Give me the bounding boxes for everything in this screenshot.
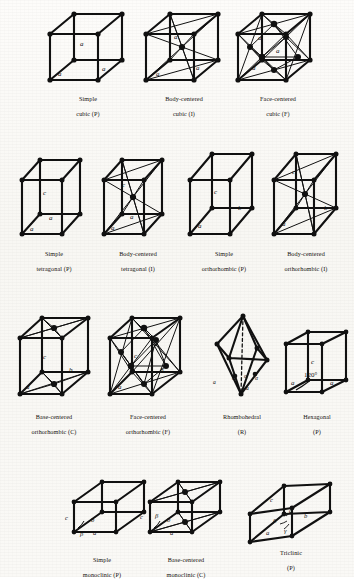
face-center-point bbox=[283, 34, 289, 40]
caption-triclinic: Triclinic (P) bbox=[248, 542, 334, 579]
body-center-point bbox=[130, 194, 136, 200]
lattice-diagram-simple-orthorhombic: c b a bbox=[184, 148, 264, 242]
edge-label-a: a bbox=[80, 40, 84, 48]
base-center-point-bottom bbox=[51, 381, 57, 387]
edge-label-a: a bbox=[26, 383, 30, 391]
caption-line-2: (P) bbox=[248, 564, 334, 571]
caption-line-2: (P) bbox=[280, 428, 354, 435]
lattice-diagram-body-centered-tetragonal: c a a bbox=[96, 150, 178, 242]
caption-line-2: orthorhombic (F) bbox=[98, 428, 198, 435]
caption-simple-cubic: Simple cubic (P) bbox=[36, 88, 140, 125]
lattice-diagram-body-centered-orthorhombic: c b a bbox=[268, 148, 350, 242]
edge-label-a: a bbox=[291, 379, 295, 387]
edge-label-a: a bbox=[102, 65, 106, 73]
caption-body-centered-cubic: Body-centered cubic (I) bbox=[130, 88, 238, 125]
caption-line-2: tetragonal (P) bbox=[8, 265, 100, 272]
caption-line-2: cubic (P) bbox=[36, 110, 140, 117]
caption-line-1: Simple bbox=[8, 250, 100, 257]
caption-line-1: Body-centered bbox=[258, 250, 354, 257]
caption-line-1: Rhombohedral bbox=[196, 413, 288, 420]
face-center-point bbox=[259, 54, 265, 60]
face-center-point bbox=[295, 54, 301, 60]
angle-label-beta: β bbox=[154, 512, 159, 519]
caption-line-2: orthorhombic (I) bbox=[258, 265, 354, 272]
caption-line-2: orthorhombic (C) bbox=[4, 428, 104, 435]
lattice-diagram-body-centered-cubic: a a a bbox=[136, 8, 232, 88]
lattice-diagram-rhombohedral: α α α a a bbox=[205, 308, 277, 406]
caption-line-2: cubic (F) bbox=[226, 110, 330, 117]
angle-label-beta: β bbox=[272, 517, 277, 524]
angle-label-alpha: α bbox=[289, 507, 293, 514]
edge-label-c: c bbox=[270, 496, 273, 503]
lattice-diagram-face-centered-orthorhombic: c b a bbox=[102, 310, 194, 404]
caption-base-centered-orthorhombic: Base-centered orthorhombic (C) bbox=[4, 406, 104, 443]
caption-line-2: (R) bbox=[196, 428, 288, 435]
edge-label-a: a bbox=[282, 220, 286, 228]
edge-label-c: c bbox=[43, 189, 47, 197]
face-center-point bbox=[247, 44, 253, 50]
caption-base-centered-monoclinic: Base-centered monoclinic (C) bbox=[134, 549, 238, 583]
caption-line-1: Hexagonal bbox=[280, 413, 354, 420]
caption-rhombohedral: Rhombohedral (R) bbox=[196, 406, 288, 443]
edge-label-a: a bbox=[252, 64, 256, 72]
edge-label-c: c bbox=[214, 188, 218, 196]
body-center-point bbox=[302, 191, 308, 197]
caption-face-centered-orthorhombic: Face-centered orthorhombic (F) bbox=[98, 406, 198, 443]
edge-label-c: c bbox=[311, 358, 315, 366]
caption-line-2: monoclinic (C) bbox=[134, 571, 238, 578]
base-center-point-bottom bbox=[182, 519, 188, 525]
lattice-diagram-triclinic: c b a α β γ bbox=[240, 480, 346, 548]
lattice-diagram-base-centered-orthorhombic: c b a bbox=[12, 310, 100, 404]
base-center-point-top bbox=[182, 489, 188, 495]
face-center-point bbox=[118, 349, 124, 355]
caption-line-1: Base-centered bbox=[4, 413, 104, 420]
angle-arc-beta bbox=[280, 521, 287, 524]
edge-label-a: a bbox=[330, 379, 334, 387]
edge-label-a: a bbox=[58, 70, 62, 78]
edge-label-a: a bbox=[130, 213, 134, 221]
lattice-diagram-simple-tetragonal: c a a bbox=[14, 150, 94, 242]
face-center-point bbox=[128, 363, 134, 369]
lattice-diagram-simple-cubic: a a a bbox=[40, 8, 136, 88]
edge-label-b: b bbox=[69, 366, 73, 374]
face-center-point bbox=[141, 381, 147, 387]
caption-line-2: cubic (I) bbox=[130, 110, 238, 117]
edge-label-b: b bbox=[238, 204, 242, 212]
caption-body-centered-orthorhombic: Body-centered orthorhombic (I) bbox=[258, 243, 354, 280]
face-center-point bbox=[163, 363, 169, 369]
face-center-point bbox=[153, 337, 159, 343]
edge-label-a: a bbox=[213, 379, 216, 385]
edge-label-b: b bbox=[324, 204, 328, 212]
edge-label-a: a bbox=[30, 225, 34, 233]
caption-hexagonal: Hexagonal (P) bbox=[280, 406, 354, 443]
caption-face-centered-cubic: Face-centered cubic (F) bbox=[226, 88, 330, 125]
caption-line-1: Simple bbox=[36, 95, 140, 102]
edge-label-c: c bbox=[122, 181, 126, 189]
base-center-point-top bbox=[51, 325, 57, 331]
edge-label-a: a bbox=[118, 383, 122, 391]
body-center-point bbox=[179, 44, 185, 50]
edge-label-a: a bbox=[174, 33, 178, 41]
angle-label-beta: β bbox=[79, 530, 84, 537]
face-center-point bbox=[141, 325, 147, 331]
lattice-diagram-hexagonal: c a a 120° bbox=[282, 326, 354, 404]
lattice-diagram-base-centered-monoclinic: c b a β bbox=[136, 476, 238, 548]
caption-line-1: Triclinic bbox=[248, 549, 334, 556]
angle-label-gamma: γ bbox=[284, 527, 287, 534]
edge-label-c: c bbox=[140, 513, 143, 520]
caption-simple-tetragonal: Simple tetragonal (P) bbox=[8, 243, 100, 280]
rhombohedral-axis-dashed bbox=[241, 316, 243, 394]
lattice-diagram-face-centered-cubic: a a a bbox=[228, 8, 328, 88]
edge-label-a: a bbox=[276, 47, 280, 55]
caption-line-1: Base-centered bbox=[134, 556, 238, 563]
angle-label-120: 120° bbox=[304, 371, 318, 379]
edge-label-a: a bbox=[198, 222, 202, 230]
caption-line-1: Face-centered bbox=[98, 413, 198, 420]
edge-label-b: b bbox=[160, 366, 164, 374]
edge-label-a: a bbox=[111, 224, 115, 232]
edge-label-c: c bbox=[43, 353, 47, 361]
caption-line-1: Face-centered bbox=[226, 95, 330, 102]
face-center-point bbox=[271, 67, 277, 73]
caption-line-1: Body-centered bbox=[130, 95, 238, 102]
edge-label-a: a bbox=[49, 214, 53, 222]
